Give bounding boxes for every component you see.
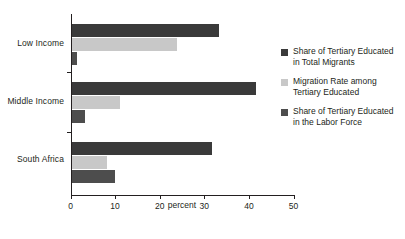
- x-tick-30: [204, 195, 205, 199]
- bar-low-income-migration-rate: [72, 38, 178, 51]
- legend-label-line1-series-2: Migration Rate among: [293, 76, 405, 87]
- category-label-low-income: Low Income: [0, 38, 64, 48]
- x-tick-20: [160, 195, 161, 199]
- bar-south-africa-migration-rate: [72, 156, 107, 169]
- bar-middle-income-share-labor-force: [72, 110, 85, 123]
- legend-label-line1-series-1: Share of Tertiary Educated: [293, 46, 405, 57]
- x-tick-0: [71, 195, 72, 199]
- legend-item-share-labor-force: Share of Tertiary Educated in the Labor …: [281, 106, 405, 127]
- x-axis-line: [71, 195, 294, 196]
- category-label-middle-income: Middle Income: [0, 96, 64, 106]
- legend-label-line2-series-2: Tertiary Educated: [293, 87, 405, 98]
- legend-label-line1-series-3: Share of Tertiary Educated: [293, 106, 405, 117]
- category-axis-labels: Low Income Middle Income South Africa: [0, 0, 64, 239]
- bar-middle-income-migration-rate: [72, 96, 121, 109]
- bar-south-africa-share-total-migrants: [72, 142, 213, 155]
- x-axis-title: percent: [71, 200, 294, 210]
- group-divider-tick-1: [67, 72, 71, 73]
- legend: Share of Tertiary Educated in Total Migr…: [281, 46, 405, 136]
- group-divider-tick-2: [67, 132, 71, 133]
- legend-label-line2-series-3: in the Labor Force: [293, 117, 405, 128]
- bar-low-income-share-labor-force: [72, 52, 77, 65]
- legend-swatch-icon-series-1: [281, 49, 288, 56]
- legend-swatch-icon-series-3: [281, 109, 288, 116]
- category-label-south-africa: South Africa: [0, 154, 64, 164]
- legend-item-migration-rate: Migration Rate among Tertiary Educated: [281, 76, 405, 97]
- legend-label-line2-series-1: in Total Migrants: [293, 57, 405, 68]
- x-tick-40: [249, 195, 250, 199]
- bar-south-africa-share-labor-force: [72, 170, 115, 183]
- bar-middle-income-share-total-migrants: [72, 82, 257, 95]
- plot-area: 01020304050: [71, 14, 294, 195]
- legend-swatch-icon-series-2: [281, 79, 288, 86]
- x-tick-10: [115, 195, 116, 199]
- bar-chart: Low Income Middle Income South Africa 01…: [0, 0, 405, 239]
- bar-low-income-share-total-migrants: [72, 24, 220, 37]
- legend-item-share-total-migrants: Share of Tertiary Educated in Total Migr…: [281, 46, 405, 67]
- x-tick-50: [294, 195, 295, 199]
